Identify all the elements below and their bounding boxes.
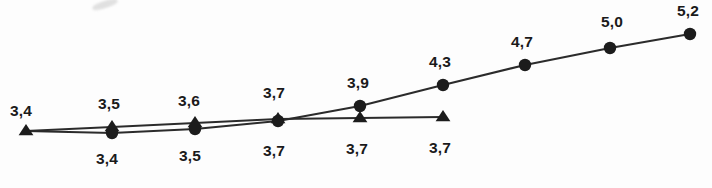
data-label-below: 3,4 [96, 151, 118, 167]
line-chart: 3,43,53,63,73,94,34,75,05,2 3,43,53,73,7… [0, 0, 712, 188]
triangle-series-line [26, 117, 443, 131]
data-label-above: 4,3 [429, 54, 451, 70]
data-label-above: 4,7 [511, 34, 533, 50]
data-label-above: 5,0 [601, 14, 623, 30]
data-label-above: 3,7 [263, 85, 285, 101]
data-point-triangle [436, 110, 451, 121]
data-point-triangle [188, 116, 203, 127]
data-point-circle [354, 100, 366, 112]
data-label-below: 3,7 [429, 140, 451, 156]
data-label-above: 5,2 [677, 3, 699, 19]
data-point-triangle [19, 124, 34, 135]
data-label-below: 3,5 [179, 148, 201, 164]
data-point-circle [684, 28, 696, 40]
data-label-above: 3,4 [10, 103, 32, 119]
data-label-below: 3,7 [263, 143, 285, 159]
data-point-triangle [353, 111, 368, 122]
data-point-triangle [105, 120, 120, 131]
data-point-circle [604, 42, 616, 54]
data-label-below: 3,7 [346, 141, 368, 157]
data-label-above: 3,5 [98, 96, 120, 112]
data-point-circle [437, 79, 449, 91]
data-label-above: 3,6 [178, 93, 200, 109]
data-label-above: 3,9 [347, 75, 369, 91]
data-point-circle [519, 59, 531, 71]
